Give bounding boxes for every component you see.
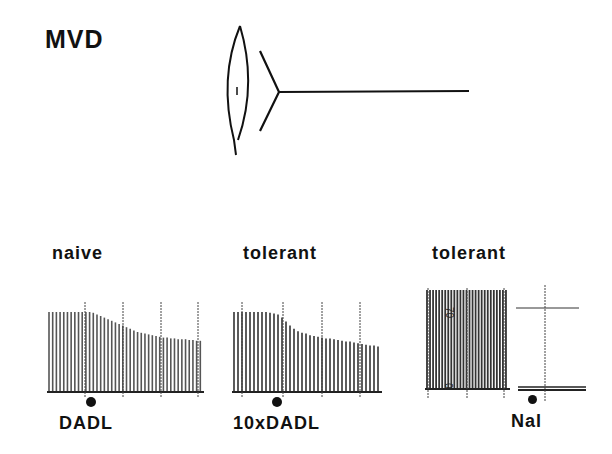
panel-3-condition: tolerant [432,243,506,264]
panel-1-drug: DADL [59,413,113,434]
drug-dot-icon [86,397,96,407]
panel-3-drug: Nal [511,411,542,432]
trace-tolerant-dadl [230,290,390,400]
svg-text:0: 0 [443,383,454,389]
panel-1-condition: naive [52,243,103,264]
trace-tolerant-nal: 700 [422,285,602,400]
svg-text:70: 70 [444,307,455,319]
trace-naive [45,290,215,400]
panel-2-condition: tolerant [243,243,317,264]
panel-2-drug: 10xDADL [233,413,320,434]
drug-dot-icon [528,395,537,404]
tissue-electrode-diagram [0,0,612,170]
drug-dot-icon [272,397,282,407]
